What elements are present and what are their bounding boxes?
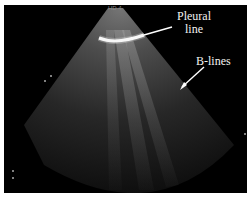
- marker-dot: [44, 80, 46, 82]
- marker-dot: [12, 170, 14, 172]
- marker-dot: [50, 75, 52, 77]
- pleural-label-line2: line: [169, 23, 219, 36]
- marker-dot: [244, 133, 246, 135]
- marker-dot: [12, 177, 14, 179]
- pleural-line-label: Pleural line: [169, 10, 219, 36]
- b-lines-label: B-lines: [196, 55, 231, 68]
- probe-label: HD 4: [108, 5, 122, 11]
- pleural-arrow: [144, 27, 172, 35]
- ultrasound-image: HD 4 Pleural line B-lines: [4, 5, 247, 193]
